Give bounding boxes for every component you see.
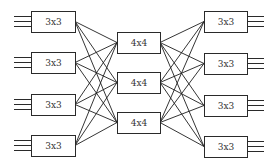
clos-network-diagram: 3x33x33x33x34x44x44x43x33x33x33x3 xyxy=(0,0,276,166)
ingress-switch-label: 3x3 xyxy=(45,17,62,27)
middle-egress-link xyxy=(160,83,204,106)
ingress-switch-3: 3x3 xyxy=(32,95,76,116)
middle-switch-3: 4x4 xyxy=(118,113,161,134)
egress-switch-label: 3x3 xyxy=(218,101,235,111)
middle-egress-link xyxy=(160,43,204,64)
middle-switch-1: 4x4 xyxy=(118,33,161,54)
middle-egress-link xyxy=(160,123,204,147)
ingress-switch-label: 3x3 xyxy=(45,141,62,151)
middle-egress-link xyxy=(160,22,204,43)
ingress-middle-link xyxy=(75,43,117,146)
switch-boxes: 3x33x33x33x34x44x44x43x33x33x33x3 xyxy=(32,12,248,158)
egress-switch-label: 3x3 xyxy=(218,59,235,69)
ingress-middle-link xyxy=(75,22,117,43)
egress-switch-3: 3x3 xyxy=(205,96,248,117)
middle-switch-label: 4x4 xyxy=(131,118,148,128)
egress-switch-4: 3x3 xyxy=(205,137,248,158)
ingress-switch-label: 3x3 xyxy=(45,58,62,68)
ingress-switch-4: 3x3 xyxy=(32,136,76,157)
middle-switch-2: 4x4 xyxy=(118,73,161,94)
middle-switch-label: 4x4 xyxy=(131,38,148,48)
middle-egress-link xyxy=(160,83,204,147)
ingress-switch-2: 3x3 xyxy=(32,53,76,74)
egress-switch-1: 3x3 xyxy=(205,12,248,33)
egress-switch-2: 3x3 xyxy=(205,54,248,75)
egress-switch-label: 3x3 xyxy=(218,142,235,152)
ingress-switch-label: 3x3 xyxy=(45,100,62,110)
egress-switch-label: 3x3 xyxy=(218,17,235,27)
ingress-middle-link xyxy=(75,123,117,146)
ingress-switch-1: 3x3 xyxy=(32,12,76,33)
middle-switch-label: 4x4 xyxy=(131,78,148,88)
ingress-middle-link xyxy=(75,63,117,83)
